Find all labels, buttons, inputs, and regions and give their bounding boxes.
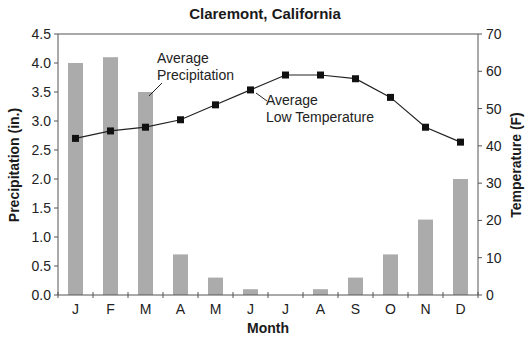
annotations: AveragePrecipitationAverageLow Temperatu… bbox=[149, 50, 374, 125]
x-tick-label: O bbox=[385, 301, 396, 317]
x-tick-label: A bbox=[316, 301, 326, 317]
temperature-marker-2 bbox=[142, 124, 149, 131]
y-left-tick-label: 2.0 bbox=[32, 171, 52, 187]
x-tick-label: F bbox=[106, 301, 115, 317]
y-right-tick-label: 20 bbox=[486, 212, 502, 228]
y-right-tick-label: 0 bbox=[486, 287, 494, 303]
temperature-marker-1 bbox=[107, 127, 114, 134]
temperature-marker-7 bbox=[317, 72, 324, 79]
precipitation-bar-1 bbox=[103, 57, 118, 295]
y-left-tick-label: 4.5 bbox=[32, 26, 52, 42]
precipitation-bar-7 bbox=[313, 289, 328, 295]
temperature-marker-6 bbox=[282, 72, 289, 79]
precipitation-bar-3 bbox=[173, 254, 188, 295]
x-tick-label: J bbox=[282, 301, 289, 317]
x-tick-label: M bbox=[210, 301, 222, 317]
precipitation-bar-0 bbox=[68, 63, 83, 295]
precipitation-bar-5 bbox=[243, 289, 258, 295]
y-left-tick-label: 1.0 bbox=[32, 229, 52, 245]
y-right-tick-label: 70 bbox=[486, 26, 502, 42]
y-right-tick-label: 10 bbox=[486, 250, 502, 266]
y-right-tick-label: 60 bbox=[486, 63, 502, 79]
y-left-tick-label: 0.0 bbox=[32, 287, 52, 303]
temperature-marker-5 bbox=[247, 86, 254, 93]
temperature-marker-9 bbox=[387, 94, 394, 101]
precipitation-bar-8 bbox=[348, 278, 363, 295]
x-tick-label: M bbox=[140, 301, 152, 317]
precipitation-bar-9 bbox=[383, 254, 398, 295]
x-tick-label: J bbox=[247, 301, 254, 317]
chart-title: Claremont, California bbox=[189, 5, 341, 22]
x-tick-label: S bbox=[351, 301, 360, 317]
y-left-tick-label: 1.5 bbox=[32, 200, 52, 216]
y-left-tick-label: 4.0 bbox=[32, 55, 52, 71]
y-right-tick-label: 50 bbox=[486, 101, 502, 117]
temperature-marker-3 bbox=[177, 116, 184, 123]
precipitation-bar-11 bbox=[453, 179, 468, 295]
y-right-tick-label: 30 bbox=[486, 175, 502, 191]
x-tick-label: N bbox=[420, 301, 430, 317]
chart-canvas: Claremont, California 0.00.51.01.52.02.5… bbox=[0, 0, 530, 341]
temperature-marker-8 bbox=[352, 75, 359, 82]
climate-chart: Claremont, California 0.00.51.01.52.02.5… bbox=[0, 0, 530, 341]
x-tick-label: D bbox=[455, 301, 465, 317]
temperature-marker-4 bbox=[212, 101, 219, 108]
annotation-temp-line1: Average bbox=[266, 92, 318, 108]
precipitation-bar-2 bbox=[138, 92, 153, 295]
temperature-marker-0 bbox=[72, 135, 79, 142]
y-left-tick-label: 2.5 bbox=[32, 142, 52, 158]
x-axis-title: Month bbox=[247, 320, 289, 336]
x-tick-label: A bbox=[176, 301, 186, 317]
annotation-temp-line2: Low Temperature bbox=[266, 109, 374, 125]
y-left-tick-label: 3.0 bbox=[32, 113, 52, 129]
y-axis-left-title: Precipitation (in.) bbox=[6, 108, 22, 222]
y-axis-right-title: Temperature (F) bbox=[508, 112, 524, 218]
y-left-tick-label: 3.5 bbox=[32, 84, 52, 100]
annotation-precip-line1: Average bbox=[157, 50, 209, 66]
x-tick-label: J bbox=[72, 301, 79, 317]
precipitation-bar-10 bbox=[418, 220, 433, 295]
y-right-tick-label: 40 bbox=[486, 138, 502, 154]
annotation-precip-leader bbox=[149, 83, 162, 96]
y-left-tick-label: 0.5 bbox=[32, 258, 52, 274]
precipitation-bar-4 bbox=[208, 278, 223, 295]
temperature-marker-10 bbox=[422, 124, 429, 131]
temperature-marker-11 bbox=[457, 139, 464, 146]
annotation-precip-line2: Precipitation bbox=[157, 67, 234, 83]
